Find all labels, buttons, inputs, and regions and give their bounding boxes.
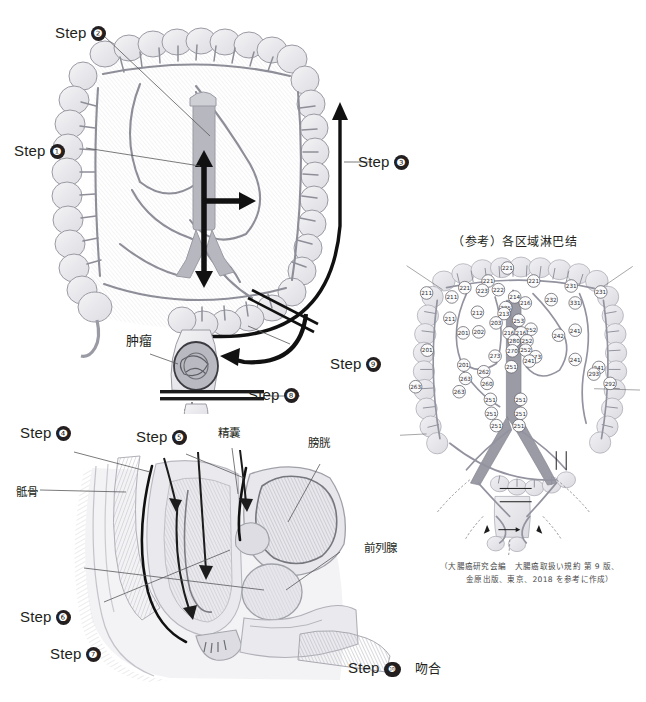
lymph-diagram-title: （参考）各区域淋巴结 bbox=[452, 232, 577, 249]
lymph-node-station: 262 bbox=[477, 365, 490, 378]
lymph-node-number: 252 bbox=[520, 347, 531, 353]
lymph-node-station: 223 bbox=[476, 284, 489, 297]
step-7-text: Step bbox=[50, 645, 82, 662]
lymph-node-station: 251 bbox=[485, 407, 498, 420]
step-3-text: Step bbox=[358, 153, 390, 170]
lymph-node-number: 221 bbox=[483, 278, 494, 284]
step-4-text: Step bbox=[20, 424, 52, 441]
lymph-node-number: 251 bbox=[486, 411, 497, 417]
lymph-node-station: 202 bbox=[472, 326, 485, 339]
step-2-badge: ❷ bbox=[91, 26, 106, 41]
lymph-node-station: 241 bbox=[569, 324, 582, 337]
lymph-node-number: 221 bbox=[502, 265, 513, 271]
lymph-node-number: 232 bbox=[546, 297, 557, 303]
step-9-text: Step bbox=[330, 355, 362, 372]
step-5-badge: ❺ bbox=[172, 430, 187, 445]
lymph-node-number: 211 bbox=[421, 290, 432, 296]
step-6-badge: ❻ bbox=[56, 610, 71, 625]
lymph-node-number: 216 bbox=[520, 300, 531, 306]
lymph-node-number: 211 bbox=[444, 316, 455, 322]
lymph-node-station: 201 bbox=[421, 344, 434, 357]
lymph-node-number: 263 bbox=[454, 389, 465, 395]
lymph-node-number: 292 bbox=[605, 381, 616, 387]
lymph-node-station: 216 bbox=[519, 297, 532, 310]
lymph-node-station: 212 bbox=[471, 306, 484, 319]
lymph-node-station: 222 bbox=[492, 283, 505, 296]
lymph-node-station: 242 bbox=[552, 329, 565, 342]
prostate-shape bbox=[242, 564, 302, 620]
lymph-node-number: 201 bbox=[458, 330, 469, 336]
lymph-node-number: 231 bbox=[566, 283, 577, 289]
lymph-node-number: 241 bbox=[570, 357, 581, 363]
lymph-node-number: 253 bbox=[513, 318, 524, 324]
lymph-node-station: 292 bbox=[604, 377, 617, 390]
lymph-node-number: 280 bbox=[509, 338, 520, 344]
step-8-badge: ❽ bbox=[284, 388, 299, 403]
label-sacrum: 骶骨 bbox=[16, 483, 38, 499]
lymph-node-number: 212 bbox=[472, 310, 483, 316]
step-9-badge: ❾ bbox=[366, 357, 381, 372]
step-1-text: Step bbox=[14, 142, 46, 159]
lymph-node-number: 251 bbox=[515, 411, 526, 417]
lymph-node-number: 273 bbox=[490, 353, 501, 359]
lymph-node-station: 253 bbox=[512, 314, 525, 327]
lymph-node-number: 242 bbox=[553, 333, 564, 339]
lymph-node-station: 251 bbox=[490, 419, 503, 432]
label-step-2: Step❷ bbox=[55, 24, 106, 41]
lymph-node-number: 223 bbox=[477, 288, 488, 294]
lymph-node-station: 221 bbox=[527, 275, 540, 288]
lymph-node-station: 251 bbox=[484, 393, 497, 406]
lymph-node-number: 263 bbox=[410, 384, 421, 390]
lymph-node-station: 211 bbox=[444, 312, 457, 325]
lymph-node-station: 263 bbox=[409, 380, 422, 393]
lymph-node-station: 293 bbox=[587, 368, 600, 381]
step-10-anastomosis-text: 吻合 bbox=[415, 661, 441, 676]
step-2-text: Step bbox=[55, 24, 87, 41]
lymph-node-number: 251 bbox=[491, 423, 502, 429]
label-tumor: 肿瘤 bbox=[126, 330, 152, 349]
lymph-node-number: 202 bbox=[473, 329, 484, 335]
tumor-mass bbox=[174, 342, 218, 390]
label-step-3: Step❸ bbox=[358, 153, 409, 170]
label-step-7: Step❼ bbox=[50, 645, 101, 662]
label-step-1: Step❶ bbox=[14, 142, 65, 159]
lymph-node-number: 241 bbox=[570, 328, 581, 334]
lymph-citation-line-2: 金原出版、東京、2018 を参考に作成） bbox=[466, 573, 614, 584]
lymph-node-number: 231 bbox=[595, 289, 606, 295]
lymph-node-number: 331 bbox=[570, 300, 581, 306]
step-3-badge: ❸ bbox=[394, 155, 409, 170]
lymph-node-station: 211 bbox=[420, 287, 433, 300]
lymph-node-number: 251 bbox=[514, 423, 525, 429]
step-1-badge: ❶ bbox=[50, 144, 65, 159]
lymph-node-station: 211 bbox=[446, 291, 459, 304]
lymph-node-number: 263 bbox=[460, 376, 471, 382]
step-10-text: Step bbox=[348, 659, 380, 676]
lymph-node-station: 201 bbox=[457, 327, 470, 340]
bladder-shape bbox=[244, 467, 346, 576]
lymph-node-number: 251 bbox=[506, 364, 517, 370]
label-step-6: Step❻ bbox=[20, 608, 71, 625]
label-bladder: 膀胱 bbox=[308, 434, 330, 450]
lymph-node-number: 201 bbox=[422, 347, 433, 353]
lymph-node-station: 221 bbox=[501, 262, 514, 275]
lymph-node-number: 211 bbox=[446, 294, 457, 300]
lymph-node-number: 201 bbox=[458, 362, 469, 368]
lymph-node-number: 270 bbox=[507, 348, 518, 354]
lymph-node-station: 263 bbox=[453, 385, 466, 398]
step-7-badge: ❼ bbox=[86, 647, 101, 662]
lymph-node-station: 201 bbox=[458, 359, 471, 372]
label-seminal-vesicle: 精囊 bbox=[218, 424, 240, 440]
lymph-node-station: 221 bbox=[459, 281, 472, 294]
lymph-node-number: 213 bbox=[499, 311, 510, 317]
label-prostate: 前列腺 bbox=[364, 539, 397, 555]
lymph-node-number: 241 bbox=[524, 358, 535, 364]
step-4-badge: ❹ bbox=[56, 426, 71, 441]
lymph-node-station: 241 bbox=[569, 353, 582, 366]
step-6-text: Step bbox=[20, 608, 52, 625]
lymph-node-station: 251 bbox=[513, 419, 526, 432]
lymph-node-station: 251 bbox=[514, 407, 527, 420]
label-step-8: Step❽ bbox=[248, 386, 299, 403]
lymph-node-station: 231 bbox=[594, 286, 607, 299]
lymph-node-number: 222 bbox=[493, 287, 504, 293]
lymph-node-station: 331 bbox=[569, 297, 582, 310]
